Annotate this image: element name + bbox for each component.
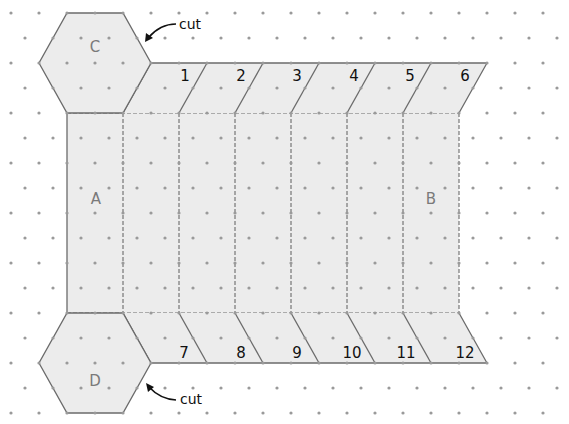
grid-dot — [443, 86, 446, 89]
grid-dot — [289, 111, 292, 114]
grid-dot — [177, 61, 180, 64]
grid-dot — [359, 286, 362, 289]
grid-dot — [247, 386, 250, 389]
grid-dot — [387, 36, 390, 39]
cut-label-top: cut — [179, 16, 202, 32]
grid-dot — [205, 261, 208, 264]
tab-label-8: 8 — [236, 344, 246, 362]
grid-dot — [107, 286, 110, 289]
grid-dot — [471, 236, 474, 239]
grid-dot — [499, 86, 502, 89]
grid-dot — [541, 261, 544, 264]
grid-dot — [429, 61, 432, 64]
grid-dot — [261, 61, 264, 64]
grid-dot — [205, 311, 208, 314]
grid-dot — [443, 286, 446, 289]
grid-dot — [373, 311, 376, 314]
grid-dot — [471, 286, 474, 289]
grid-dot — [37, 261, 40, 264]
grid-dot — [9, 361, 12, 364]
grid-dot — [457, 311, 460, 314]
grid-dot — [205, 211, 208, 214]
grid-dot — [149, 311, 152, 314]
grid-dot — [37, 61, 40, 64]
tab-label-4: 4 — [349, 67, 359, 85]
grid-dot — [149, 211, 152, 214]
grid-dot — [555, 186, 558, 189]
grid-dot — [23, 136, 26, 139]
grid-dot — [233, 211, 236, 214]
grid-dot — [219, 386, 222, 389]
grid-dot — [359, 86, 362, 89]
grid-dot — [191, 36, 194, 39]
grid-dot — [177, 411, 180, 414]
grid-dot — [51, 336, 54, 339]
grid-dot — [541, 11, 544, 14]
grid-dot — [65, 311, 68, 314]
grid-dot — [345, 261, 348, 264]
grid-dot — [387, 386, 390, 389]
grid-dot — [443, 336, 446, 339]
grid-dot — [429, 261, 432, 264]
grid-dot — [289, 161, 292, 164]
grid-dot — [177, 161, 180, 164]
grid-dot — [485, 11, 488, 14]
grid-dot — [65, 211, 68, 214]
grid-dot — [163, 236, 166, 239]
grid-dot — [429, 11, 432, 14]
grid-dot — [541, 211, 544, 214]
grid-dot — [471, 336, 474, 339]
grid-dot — [247, 286, 250, 289]
grid-dot — [359, 236, 362, 239]
grid-dot — [121, 411, 124, 414]
grid-dot — [135, 186, 138, 189]
grid-dot — [289, 261, 292, 264]
grid-dot — [163, 136, 166, 139]
grid-dot — [37, 11, 40, 14]
grid-dot — [51, 236, 54, 239]
grid-dot — [149, 261, 152, 264]
grid-dot — [191, 86, 194, 89]
grid-dot — [23, 86, 26, 89]
grid-dot — [121, 61, 124, 64]
grid-dot — [205, 411, 208, 414]
grid-dot — [499, 386, 502, 389]
grid-dot — [135, 286, 138, 289]
grid-dot — [219, 286, 222, 289]
grid-dot — [37, 161, 40, 164]
curved-arrow-icon — [148, 24, 176, 38]
grid-dot — [485, 261, 488, 264]
grid-dot — [513, 61, 516, 64]
grid-dot — [373, 161, 376, 164]
grid-dot — [191, 186, 194, 189]
grid-dot — [331, 36, 334, 39]
grid-dot — [387, 86, 390, 89]
grid-dot — [331, 236, 334, 239]
grid-dot — [65, 11, 68, 14]
grid-dot — [457, 211, 460, 214]
grid-dot — [121, 11, 124, 14]
grid-dot — [401, 261, 404, 264]
tab-label-2: 2 — [236, 67, 246, 85]
grid-dot — [317, 411, 320, 414]
prism-net-diagram: C D A B 1 2 3 4 5 6 7 8 9 10 11 12 cut c… — [0, 0, 569, 424]
grid-dot — [359, 386, 362, 389]
grid-dot — [415, 136, 418, 139]
grid-dot — [9, 161, 12, 164]
grid-dot — [121, 111, 124, 114]
grid-dot — [23, 386, 26, 389]
grid-dot — [331, 386, 334, 389]
grid-dot — [331, 336, 334, 339]
grid-dot — [527, 236, 530, 239]
grid-dot — [121, 261, 124, 264]
grid-dot — [401, 411, 404, 414]
grid-dot — [205, 61, 208, 64]
grid-dot — [471, 386, 474, 389]
grid-dot — [345, 161, 348, 164]
grid-dot — [93, 11, 96, 14]
grid-dot — [457, 261, 460, 264]
grid-dot — [261, 311, 264, 314]
grid-dot — [499, 336, 502, 339]
grid-dot — [233, 161, 236, 164]
grid-dot — [93, 361, 96, 364]
